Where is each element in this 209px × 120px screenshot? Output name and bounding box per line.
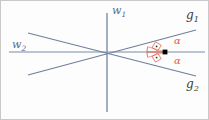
- label-axis-w1-base: w: [112, 4, 121, 17]
- label-axis-w2-subscript: 2: [21, 44, 26, 53]
- label-axis-w2: w2: [12, 39, 26, 53]
- geometry-figure: w1 w2 g1 g2 α α: [0, 0, 209, 120]
- label-axis-w1-subscript: 1: [121, 10, 126, 19]
- right-angle-dot-upper: [156, 46, 158, 48]
- label-line-g1-base: g: [186, 8, 194, 22]
- label-line-g2-subscript: 2: [194, 83, 199, 93]
- label-axis-w2-base: w: [12, 38, 21, 51]
- label-angle-alpha-lower: α: [174, 56, 181, 66]
- label-angle-alpha-upper: α: [174, 36, 181, 46]
- right-angle-dot-lower: [156, 57, 158, 59]
- label-line-g2-base: g: [186, 77, 194, 91]
- label-line-g1: g1: [186, 9, 199, 24]
- label-line-g1-subscript: 1: [194, 14, 199, 24]
- label-line-g2: g2: [186, 78, 199, 93]
- marked-point: [163, 50, 168, 55]
- label-axis-w1: w1: [112, 5, 126, 19]
